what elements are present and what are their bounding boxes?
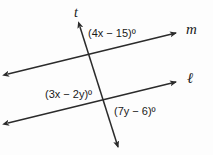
angle-label-lower-left: (3x − 2y)º	[45, 89, 92, 100]
geometry-figure: t m ℓ (4x − 15)º (3x − 2y)º (7y − 6)º	[0, 0, 213, 155]
line-label-l: ℓ	[187, 71, 193, 86]
angle-label-lower-right: (7y − 6)º	[114, 106, 156, 117]
angle-label-upper: (4x − 15)º	[88, 28, 136, 39]
line-transversal-t	[80, 27, 118, 147]
line-m	[8, 33, 176, 74]
line-label-t: t	[74, 6, 78, 20]
line-label-m: m	[186, 22, 197, 37]
geometry-canvas	[0, 0, 213, 155]
